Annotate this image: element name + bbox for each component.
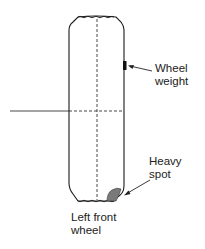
wheel-weight-label: Wheel weight bbox=[155, 62, 188, 88]
heavy-spot-label: Heavy spot bbox=[149, 155, 182, 181]
wheel-weight-arrowhead bbox=[128, 65, 134, 69]
heavy-spot-arrowhead bbox=[124, 191, 131, 196]
heavy-spot-arrow bbox=[126, 180, 150, 194]
tire-outline bbox=[69, 16, 124, 201]
caption-label: Left front wheel bbox=[71, 211, 116, 237]
wheel-weight-marker bbox=[123, 61, 127, 70]
heavy-spot-marker bbox=[107, 188, 121, 201]
